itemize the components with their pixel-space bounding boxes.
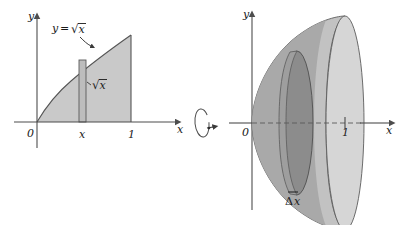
rotation-arrow bbox=[194, 108, 213, 137]
curve-label-lhs: y bbox=[51, 22, 59, 35]
right-x-axis-label: x bbox=[386, 124, 393, 137]
representative-strip bbox=[79, 60, 86, 122]
left-origin-label: 0 bbox=[27, 127, 34, 140]
curve-label-leader-arrow bbox=[80, 37, 91, 46]
right-y-axis-label: y bbox=[242, 8, 250, 21]
delta-x-variable: x bbox=[294, 195, 301, 208]
left-y-axis-label: y bbox=[27, 10, 35, 23]
left-xtick-x: x bbox=[79, 128, 86, 141]
left-x-axis-label: x bbox=[177, 123, 184, 136]
right-origin-label: 0 bbox=[242, 126, 249, 139]
figure-svg: y x 0 x 1 y = √ x √ x bbox=[0, 0, 397, 225]
strip-height-radicand: x bbox=[100, 79, 107, 92]
right-panel: y x 0 1 Δ x bbox=[229, 8, 393, 225]
rotation-axis-dot bbox=[208, 127, 211, 130]
curve-label-equals: = bbox=[60, 22, 69, 35]
left-xtick-1: 1 bbox=[128, 128, 135, 141]
curve-label-radicand: x bbox=[79, 23, 86, 36]
right-xtick-1: 1 bbox=[342, 126, 349, 139]
rotation-arrow-ellipse bbox=[194, 108, 211, 137]
figure-container: y x 0 x 1 y = √ x √ x bbox=[0, 0, 397, 225]
curve-label-group: y = √ x bbox=[51, 22, 91, 46]
delta-x-delta: Δ bbox=[285, 195, 293, 208]
left-panel: y x 0 x 1 y = √ x √ x bbox=[14, 10, 184, 148]
